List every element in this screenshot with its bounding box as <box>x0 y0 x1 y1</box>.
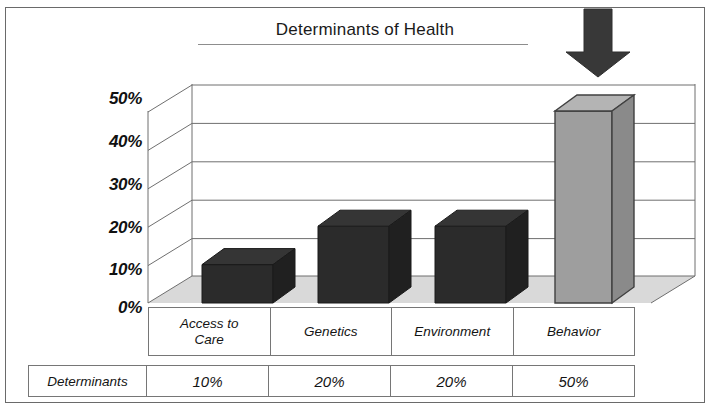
down-arrow-icon <box>563 7 633 79</box>
data-table: Determinants 10% 20% 20% 50% <box>28 365 635 397</box>
bar-genetics <box>318 210 411 303</box>
category-label-line1: Access to <box>180 316 239 331</box>
page-title: Determinants of Health <box>195 20 535 40</box>
category-axis-labels: Access to Care Genetics Environment Beha… <box>148 307 635 356</box>
category-label-environment: Environment <box>392 308 514 355</box>
title-block: Determinants of Health <box>195 20 535 45</box>
table-cell-access-to-care: 10% <box>147 366 269 396</box>
title-underline <box>198 44 528 45</box>
bar-environment <box>435 210 528 303</box>
chart-screenshot: Determinants of Health 50% 40% 30% 20% 1… <box>0 0 715 414</box>
category-label-line2: Care <box>195 332 224 347</box>
category-label-genetics: Genetics <box>271 308 393 355</box>
table-row-header: Determinants <box>29 366 147 396</box>
plot-area <box>120 80 710 320</box>
category-label-behavior: Behavior <box>514 308 635 355</box>
bar-behavior <box>555 95 634 303</box>
table-cell-behavior: 50% <box>513 366 634 396</box>
bar-access-to-care <box>202 249 295 303</box>
category-label-access-to-care: Access to Care <box>149 308 271 355</box>
table-cell-environment: 20% <box>391 366 513 396</box>
table-cell-genetics: 20% <box>269 366 391 396</box>
